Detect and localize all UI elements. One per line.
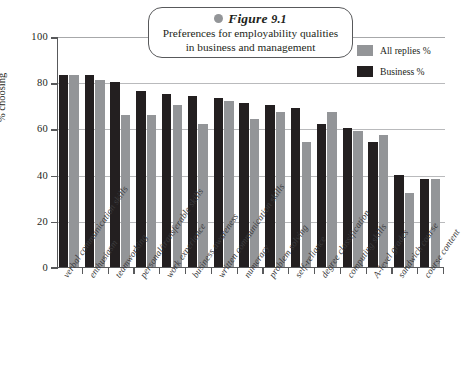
figure-number: 9.1 [271, 12, 287, 26]
figure-subtitle-line-1: Preferences for employability qualities [149, 27, 352, 41]
figure-title-box: Figure 9.1 Preferences for employability… [148, 7, 353, 58]
figure-word: Figure [228, 11, 267, 26]
figure-caption-heading: Figure 9.1 [149, 11, 352, 27]
legend-swatch-all-replies [357, 45, 373, 56]
legend-item-all-replies: All replies % [357, 45, 457, 56]
legend-label-business: Business % [380, 66, 425, 77]
legend-label-all-replies: All replies % [380, 45, 431, 56]
chart-legend: All replies % Business % [357, 45, 457, 87]
bullet-dot-icon [214, 14, 223, 23]
figure-chart: 100 80 60 40 20 0 % choosing verbal comm… [0, 0, 462, 388]
legend-swatch-business [357, 66, 373, 77]
legend-item-business: Business % [357, 66, 457, 77]
figure-subtitle-line-2: in business and management [149, 41, 352, 55]
